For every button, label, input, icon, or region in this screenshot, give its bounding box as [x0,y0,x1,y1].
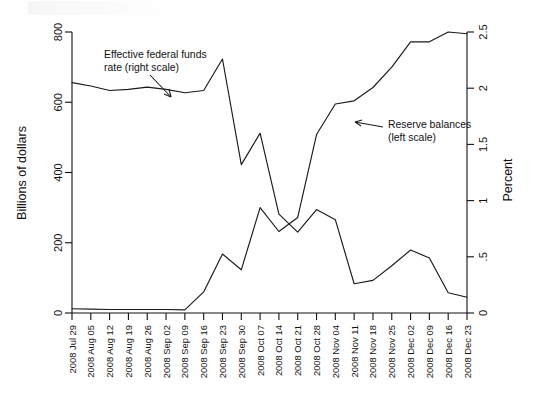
series-line-reserve-balances [72,32,467,310]
x-tick-label: 2008 Nov 04 [330,325,341,378]
y-tick-label: 800 [52,23,64,41]
series-line-fed-funds-rate [72,59,467,297]
y-tick-label: 400 [52,163,64,181]
ffr-annotation-line2: rate (right scale) [104,62,179,73]
x-tick-label: 2008 Aug 19 [123,325,134,378]
y-tick-label: 0 [52,310,64,316]
y2-axis-ticks: 0.511.522.5 [467,24,489,316]
x-tick-label: 2008 Dec 09 [424,325,435,378]
federal-reserve-line-chart: Billions of dollars Percent 020040060080… [0,0,536,411]
x-tick-label: 2008 Dec 02 [405,325,416,378]
x-tick-label: 2008 Oct 28 [311,325,322,376]
x-axis-ticks [72,313,467,320]
x-tick-label: 2008 Aug 26 [142,325,153,378]
x-tick-label: 2008 Nov 11 [349,325,360,377]
reserves-annotation-line2: (left scale) [388,132,436,143]
x-axis-labels: 2008 Jul 292008 Aug 052008 Aug 122008 Au… [67,325,473,378]
y2-tick-label: 2.5 [477,24,489,39]
y-tick-label: 200 [52,234,64,252]
reserves-annotation-line1: Reserve balances [388,119,471,130]
x-tick-label: 2008 Sep 23 [217,325,228,378]
y2-axis-title: Percent [501,158,515,202]
x-tick-label: 2008 Dec 16 [443,325,454,378]
x-tick-label: 2008 Nov 18 [367,325,378,378]
x-tick-label: 2008 Sep 02 [161,325,172,378]
x-tick-label: 2008 Dec 23 [462,325,473,378]
x-tick-label: 2008 Sep 30 [236,325,247,378]
y2-tick-label: 2 [477,85,489,91]
ffr-annotation-arrow [150,75,171,97]
x-tick-label: 2008 Oct 21 [292,325,303,376]
y2-tick-label: 1.5 [477,137,489,152]
y2-tick-label: 1 [477,198,489,204]
y2-tick-label: .5 [477,252,489,261]
chart-figure: Billions of dollars Percent 020040060080… [0,0,536,411]
x-tick-label: 2008 Nov 25 [386,325,397,378]
x-tick-label: 2008 Jul 29 [67,325,78,373]
x-tick-label: 2008 Oct 07 [255,325,266,376]
y-tick-label: 600 [52,93,64,111]
y2-tick-label: 0 [477,310,489,316]
y-axis-title: Billions of dollars [15,126,29,220]
x-tick-label: 2008 Aug 05 [85,325,96,378]
ffr-annotation-line1: Effective federal funds [104,49,207,60]
x-tick-label: 2008 Aug 12 [104,325,115,378]
x-tick-label: 2008 Sep 16 [198,325,209,378]
y-axis-ticks: 0200400600800 [52,23,72,316]
x-tick-label: 2008 Oct 14 [273,325,284,376]
x-tick-label: 2008 Sep 09 [179,325,190,378]
reserves-annotation: Reserve balances (left scale) [355,119,471,143]
